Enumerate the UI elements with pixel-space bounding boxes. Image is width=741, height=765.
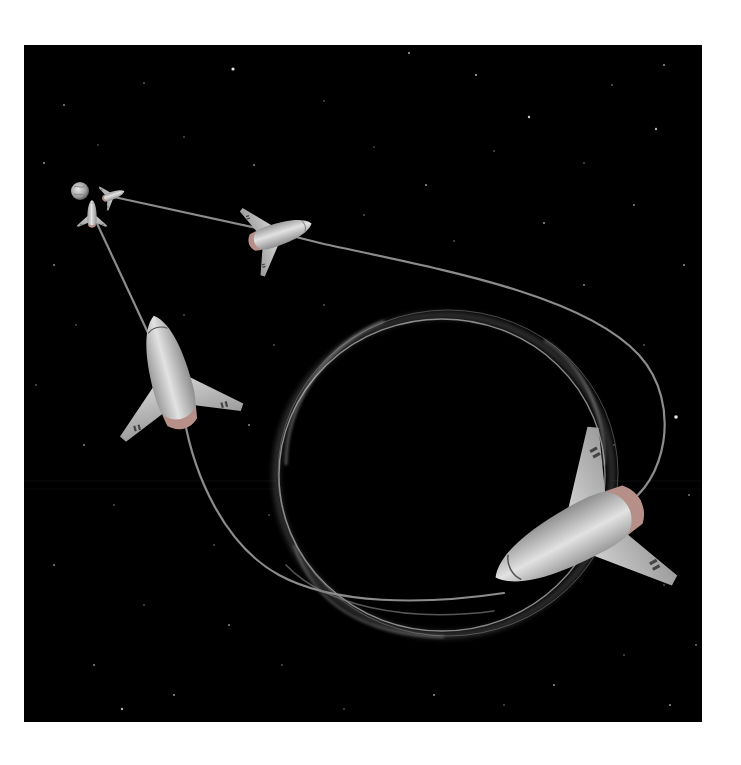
spacecraft-earth-upper	[98, 179, 129, 211]
spacecraft-transit-upper	[238, 189, 323, 278]
space-illustration: Spacecraft trajectory looping around a b…	[24, 45, 702, 722]
earth	[71, 182, 89, 200]
black-hole-ring	[276, 310, 618, 637]
spacecraft-transit-left	[92, 299, 245, 445]
spacecraft-earth-lower	[77, 200, 107, 228]
